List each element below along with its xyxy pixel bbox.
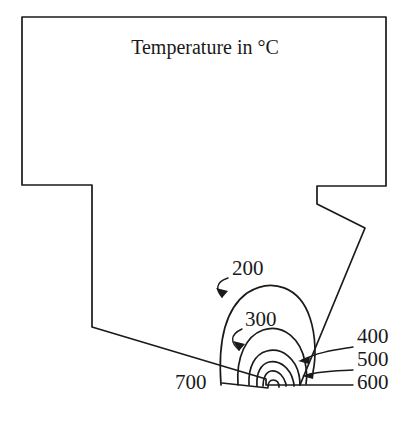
contour-700 xyxy=(268,380,279,387)
contour-300 xyxy=(238,328,307,385)
temperature-contour-figure: Temperature in °C 200 300 400 500 600 70… xyxy=(0,0,406,427)
leader-line-700 xyxy=(222,383,268,388)
contour-label-200: 200 xyxy=(232,256,264,280)
contour-label-500: 500 xyxy=(357,347,389,371)
contour-label-700: 700 xyxy=(175,370,207,394)
figure-title: Temperature in °C xyxy=(131,36,279,59)
part-outline xyxy=(22,17,386,385)
arrowhead-200 xyxy=(216,288,228,298)
contour-label-400: 400 xyxy=(357,324,389,348)
contour-label-600: 600 xyxy=(357,370,389,394)
contour-label-300: 300 xyxy=(245,307,277,331)
